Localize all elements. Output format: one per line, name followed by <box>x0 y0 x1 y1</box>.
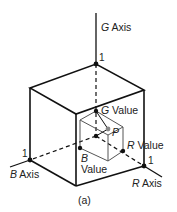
g-axis-unit-point <box>94 62 99 67</box>
b-axis-line <box>10 160 30 167</box>
g-axis-tick-label: 1 <box>99 52 105 63</box>
figure-caption: (a) <box>78 194 91 206</box>
rgb-color-cube-diagram: G Axis 1 G Value P B Value R Value 1 B A… <box>0 0 177 212</box>
point-p-label: P <box>112 126 119 138</box>
g-axis-label: G Axis <box>101 21 131 33</box>
color-point-p <box>106 127 111 132</box>
r-axis-line <box>144 166 162 177</box>
r-axis-label: R Axis <box>132 177 162 189</box>
r-value-point <box>121 149 125 153</box>
b-axis-tick-label: 1 <box>22 148 28 159</box>
r-axis-unit-point <box>142 164 147 169</box>
origin-point <box>94 134 98 138</box>
b-value-point <box>78 146 82 150</box>
b-axis-unit-point <box>28 158 33 163</box>
g-value-label: G Value <box>101 104 138 116</box>
cube-svg: G Axis 1 G Value P B Value R Value 1 B A… <box>0 0 177 212</box>
b-axis-label: B Axis <box>10 168 39 180</box>
g-value-point <box>94 109 98 113</box>
b-value-word: Value <box>81 163 107 175</box>
r-axis-tick-label: 1 <box>148 155 154 166</box>
r-value-label: R Value <box>127 139 164 151</box>
